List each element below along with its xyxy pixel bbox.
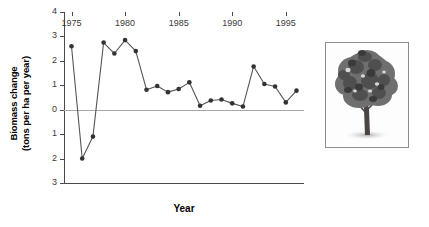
x-axis-label: Year [64, 203, 304, 214]
data-point [230, 101, 235, 106]
tree-photo-image [326, 43, 408, 147]
figure: Biomass change (tons per ha per year) 43… [0, 0, 429, 227]
tree-photograph [325, 42, 409, 148]
plot-area: 43210123 19751980198519901995 [64, 12, 304, 183]
data-point [262, 82, 267, 87]
data-point [251, 64, 256, 69]
y-axis-label-line1: Biomass change [8, 66, 19, 140]
y-axis-label-line2: (tons per ha per year) [19, 19, 31, 189]
y-tick-label: 3 [52, 30, 57, 40]
y-tick-label: 4 [52, 6, 57, 16]
y-tick-label: 1 [52, 79, 57, 89]
data-point [69, 44, 74, 49]
data-point [155, 84, 160, 89]
data-point [198, 104, 203, 109]
x-axis-line [64, 183, 304, 184]
data-point [187, 80, 192, 85]
data-point [166, 90, 171, 95]
data-point [101, 40, 106, 45]
data-point [133, 49, 138, 54]
data-point [294, 88, 299, 93]
data-point [273, 84, 278, 89]
y-tick-label: 1 [52, 128, 57, 138]
data-point [112, 51, 117, 56]
data-point [283, 100, 288, 105]
data-point [123, 38, 128, 43]
biomass-change-chart: Biomass change (tons per ha per year) 43… [0, 0, 315, 227]
data-point [241, 104, 246, 109]
data-point [80, 156, 85, 161]
y-tick-label: 3 [52, 177, 57, 187]
data-point [219, 97, 224, 102]
y-tick-label: 2 [52, 153, 57, 163]
y-tick-label: 0 [52, 104, 57, 114]
data-point [208, 98, 213, 103]
data-point [144, 87, 149, 92]
series-line [72, 40, 297, 158]
y-tick: 3 [60, 183, 64, 184]
data-point [91, 134, 96, 139]
y-axis-label: Biomass change (tons per ha per year) [8, 19, 31, 189]
data-point [176, 87, 181, 92]
data-series [64, 12, 304, 183]
y-tick-label: 2 [52, 55, 57, 65]
